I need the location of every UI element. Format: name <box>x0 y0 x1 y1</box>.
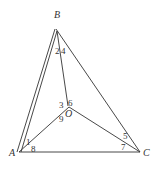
angle-label-8: 8 <box>31 144 36 154</box>
segment-co <box>69 107 140 152</box>
vertex-label-c: C <box>143 147 150 158</box>
angle-label-5: 5 <box>123 131 128 141</box>
geometry-diagram: B A C O 1 2 3 4 5 6 7 8 9 <box>0 0 162 175</box>
vertex-label-a: A <box>8 147 16 158</box>
angle-label-4: 4 <box>61 46 66 56</box>
angle-label-6: 6 <box>68 98 73 108</box>
angle-label-1: 1 <box>26 137 31 147</box>
vertex-label-b: B <box>54 9 60 20</box>
segment-bo <box>57 31 68 106</box>
segment-ab-outer <box>17 29 55 152</box>
angle-label-9: 9 <box>59 114 64 124</box>
angle-label-2: 2 <box>55 46 60 56</box>
vertex-label-o: O <box>65 108 72 119</box>
angle-label-7: 7 <box>121 142 126 152</box>
angle-label-3: 3 <box>59 100 64 110</box>
